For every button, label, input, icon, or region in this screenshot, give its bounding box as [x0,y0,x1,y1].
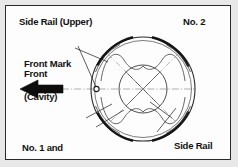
label-no-1-and-line1: No. 1 and [22,142,64,153]
label-no-1-and-expander: No. 1 and Expander [22,120,64,167]
front-mark-circle-icon [94,86,99,91]
label-side-rail-upper: Side Rail (Upper) [19,16,92,27]
label-front-mark: Front Mark (Cavity) [24,36,71,124]
figure-page: Side Rail (Upper) No. 2 Front Mark (Cavi… [0,0,238,167]
leader-front-mark [78,46,96,87]
label-side-rail-lower-line1: Side Rail [174,140,212,151]
label-no-2: No. 2 [183,16,205,27]
label-front: Front [24,68,47,79]
label-side-rail-lower: Side Rail (Lower) [174,118,212,167]
label-front-mark-line2: (Cavity) [24,91,71,102]
